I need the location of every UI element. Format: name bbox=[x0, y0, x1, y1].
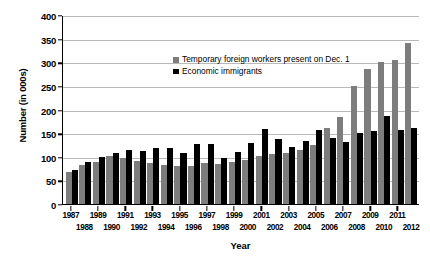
bar bbox=[275, 139, 281, 204]
bar bbox=[357, 133, 363, 204]
bar bbox=[289, 147, 295, 204]
bar-group bbox=[242, 16, 256, 204]
bar-group bbox=[296, 16, 310, 204]
bar bbox=[235, 152, 241, 204]
bar-group bbox=[269, 16, 283, 204]
bar bbox=[113, 153, 119, 204]
bar-group bbox=[337, 16, 351, 204]
bar-group bbox=[377, 16, 391, 204]
y-tick-label: 0 bbox=[20, 200, 56, 211]
bar-group bbox=[228, 16, 242, 204]
y-tick-mark bbox=[58, 181, 62, 182]
y-tick-mark bbox=[58, 39, 62, 40]
x-tick-label: 2008 bbox=[348, 223, 365, 232]
x-tick-label: 2003 bbox=[280, 211, 297, 220]
bar bbox=[85, 162, 91, 204]
y-tick-label: 200 bbox=[20, 105, 56, 116]
bar bbox=[208, 144, 214, 204]
x-tick-label: 2011 bbox=[389, 211, 405, 220]
bar-group bbox=[119, 16, 133, 204]
bar bbox=[99, 157, 105, 204]
chart-legend: Temporary foreign workers present on Dec… bbox=[173, 54, 350, 77]
bar bbox=[248, 143, 254, 204]
x-tick-label: 2004 bbox=[294, 223, 311, 232]
bar bbox=[384, 116, 390, 204]
x-tick-label: 2010 bbox=[376, 223, 393, 232]
bars-layer bbox=[63, 16, 419, 204]
y-tick-label: 300 bbox=[20, 58, 56, 69]
bar bbox=[153, 148, 159, 204]
bar-group bbox=[323, 16, 337, 204]
bar-group bbox=[404, 16, 418, 204]
x-tick-label: 1987 bbox=[62, 211, 79, 220]
x-tick-label: 1988 bbox=[76, 223, 93, 232]
x-tick-label: 2002 bbox=[267, 223, 284, 232]
bar-group bbox=[79, 16, 93, 204]
legend-item-temporary-foreign-workers: Temporary foreign workers present on Dec… bbox=[173, 54, 350, 66]
bar-group bbox=[364, 16, 378, 204]
x-tick-label: 2005 bbox=[307, 211, 324, 220]
bar-group bbox=[309, 16, 323, 204]
x-tick-label: 2007 bbox=[335, 211, 352, 220]
bar bbox=[194, 144, 200, 204]
bar bbox=[262, 129, 268, 204]
bar-group bbox=[92, 16, 106, 204]
black-square-icon bbox=[173, 69, 179, 75]
bar bbox=[126, 150, 132, 204]
legend-label-temporary-foreign-workers: Temporary foreign workers present on Dec… bbox=[182, 54, 350, 66]
x-tick-label: 1989 bbox=[90, 211, 107, 220]
bar-group bbox=[174, 16, 188, 204]
y-tick-mark bbox=[58, 133, 62, 134]
x-axis-ticks: 1987198819891990199119921993199419951996… bbox=[62, 206, 419, 236]
x-tick-label: 1996 bbox=[185, 223, 202, 232]
bar-group bbox=[255, 16, 269, 204]
bar-group bbox=[391, 16, 405, 204]
legend-item-economic-immigrants: Economic immigrants bbox=[173, 66, 350, 78]
bar-group bbox=[160, 16, 174, 204]
bar bbox=[303, 141, 309, 204]
x-tick-label: 2001 bbox=[253, 211, 270, 220]
y-tick-label: 400 bbox=[20, 11, 56, 22]
x-tick-label: 1997 bbox=[199, 211, 216, 220]
bar bbox=[398, 130, 404, 204]
legend-label-economic-immigrants: Economic immigrants bbox=[182, 66, 262, 78]
x-tick-label: 1999 bbox=[226, 211, 243, 220]
bar-group bbox=[201, 16, 215, 204]
bar-group bbox=[282, 16, 296, 204]
bar-group bbox=[350, 16, 364, 204]
bar bbox=[167, 148, 173, 204]
x-tick-label: 1991 bbox=[117, 211, 134, 220]
x-tick: 2012 bbox=[404, 206, 418, 236]
bar bbox=[330, 138, 336, 204]
bar bbox=[316, 130, 322, 204]
y-tick-mark bbox=[58, 63, 62, 64]
bar-group bbox=[65, 16, 79, 204]
grey-square-icon bbox=[173, 57, 179, 63]
y-tick-label: 250 bbox=[20, 81, 56, 92]
x-tick-label: 1995 bbox=[171, 211, 188, 220]
y-tick-label: 350 bbox=[20, 34, 56, 45]
bar-group bbox=[146, 16, 160, 204]
x-tick-label: 1998 bbox=[212, 223, 229, 232]
x-axis-title: Year bbox=[62, 240, 419, 251]
x-tick-label: 2000 bbox=[239, 223, 256, 232]
bar-group bbox=[214, 16, 228, 204]
x-tick-label: 1990 bbox=[103, 223, 120, 232]
x-tick-label: 2012 bbox=[403, 223, 420, 232]
bar bbox=[72, 170, 78, 204]
y-tick-mark bbox=[58, 86, 62, 87]
plot-area: Temporary foreign workers present on Dec… bbox=[62, 16, 419, 205]
bar-group bbox=[133, 16, 147, 204]
y-tick-mark bbox=[58, 157, 62, 158]
x-tick-label: 2009 bbox=[362, 211, 379, 220]
bar bbox=[371, 131, 377, 204]
bar-group bbox=[187, 16, 201, 204]
x-tick-label: 1994 bbox=[158, 223, 175, 232]
bar bbox=[411, 128, 417, 204]
x-tick-label: 1993 bbox=[144, 211, 161, 220]
x-tick-label: 2006 bbox=[321, 223, 338, 232]
bar bbox=[180, 153, 186, 204]
y-tick-label: 100 bbox=[20, 152, 56, 163]
y-tick-mark bbox=[58, 15, 62, 16]
y-tick-mark bbox=[58, 110, 62, 111]
